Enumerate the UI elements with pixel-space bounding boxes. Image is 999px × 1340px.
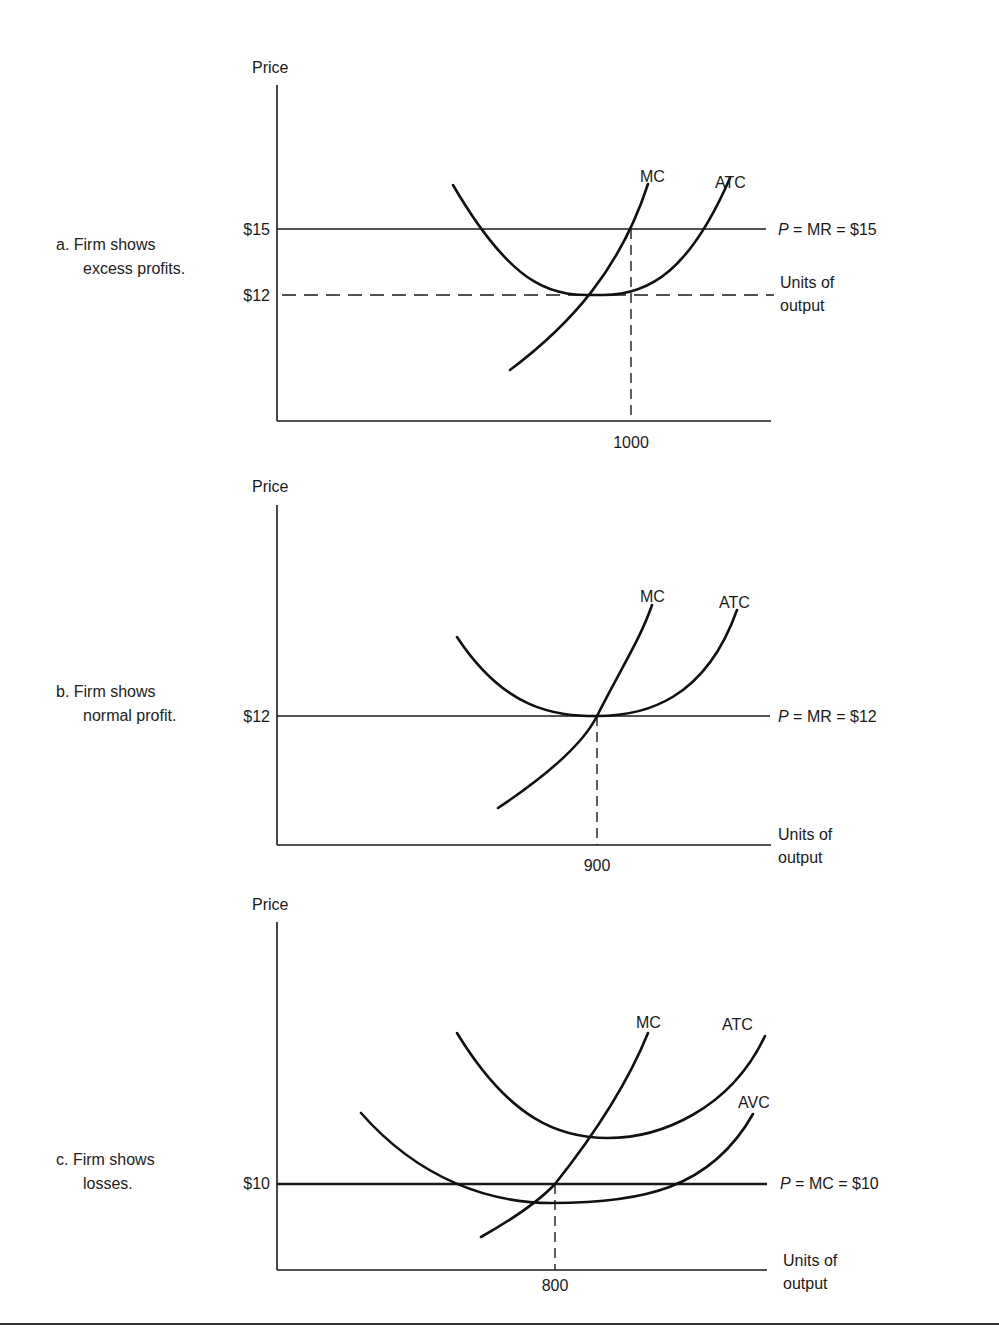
panel-c-avc-curve — [361, 1113, 753, 1203]
panel-c-losses: c. Firm shows losses. Price $10 MC ATC A… — [56, 896, 879, 1294]
panel-a-mc-label: MC — [640, 168, 665, 185]
panel-a-y-axis-label: Price — [252, 59, 289, 76]
panel-c-xtick-800: 800 — [542, 1277, 569, 1294]
panel-b-atc-label: ATC — [719, 594, 750, 611]
panel-b-mc-label: MC — [640, 588, 665, 605]
panel-b-y-axis-label: Price — [252, 478, 289, 495]
panel-b-x-axis-label-line1: Units of — [778, 826, 833, 843]
panel-c-ytick-10: $10 — [243, 1175, 270, 1192]
panel-c-y-axis-label: Price — [252, 896, 289, 913]
panel-b-normal-profit: b. Firm shows normal profit. Price $12 M… — [56, 478, 877, 874]
panel-a-atc-curve — [453, 178, 730, 295]
panel-c-caption-line2: losses. — [83, 1175, 133, 1192]
panel-a-ytick-15: $15 — [243, 221, 270, 238]
panel-a-caption-line1: a. Firm shows — [56, 236, 156, 253]
panel-a-ytick-12: $12 — [243, 287, 270, 304]
panel-b-mc-curve — [498, 605, 652, 808]
panel-a-xtick-1000: 1000 — [613, 434, 649, 451]
panel-c-atc-label: ATC — [722, 1016, 753, 1033]
panel-c-atc-curve — [457, 1033, 765, 1138]
panel-b-x-axis-label-line2: output — [778, 849, 823, 866]
panel-c-avc-label: AVC — [738, 1094, 770, 1111]
panel-c-x-axis-label-line1: Units of — [783, 1252, 838, 1269]
panel-b-price-label: P = MR = $12 — [778, 708, 877, 725]
panel-c-price-label: P = MC = $10 — [780, 1175, 879, 1192]
panel-a-price-label: P = MR = $15 — [778, 221, 877, 238]
panel-a-caption-line2: excess profits. — [83, 260, 185, 277]
panel-a-atc-label: ATC — [715, 174, 746, 191]
cost-curves-figure: a. Firm shows excess profits. Price $15 … — [0, 0, 999, 1340]
panel-a-mc-curve — [510, 184, 648, 370]
panel-b-atc-curve — [457, 610, 737, 716]
panel-c-x-axis-label-line2: output — [783, 1275, 828, 1292]
panel-a-x-axis-label-line1: Units of — [780, 274, 835, 291]
panel-b-caption-line2: normal profit. — [83, 707, 176, 724]
panel-a-x-axis-label-line2: output — [780, 297, 825, 314]
panel-c-mc-curve — [481, 1033, 648, 1237]
panel-c-mc-label: MC — [636, 1014, 661, 1031]
panel-a-excess-profits: a. Firm shows excess profits. Price $15 … — [56, 59, 877, 451]
panel-b-ytick-12: $12 — [243, 708, 270, 725]
panel-b-xtick-900: 900 — [584, 857, 611, 874]
panel-b-caption-line1: b. Firm shows — [56, 683, 156, 700]
panel-c-caption-line1: c. Firm shows — [56, 1151, 155, 1168]
